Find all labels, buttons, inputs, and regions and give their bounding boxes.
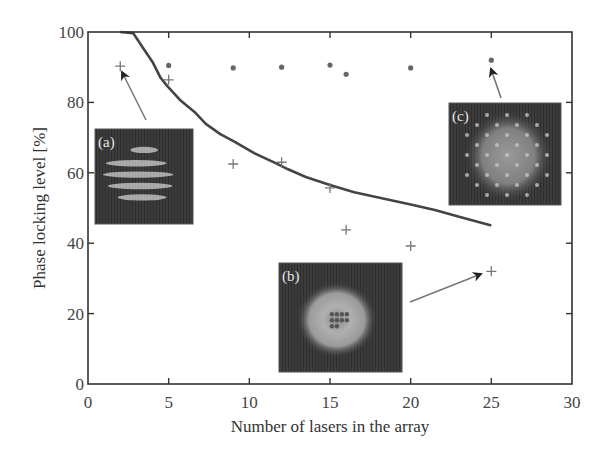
inset-c-image: (c)	[449, 103, 561, 205]
data-point-dot	[489, 58, 494, 63]
x-tick-label: 0	[84, 393, 93, 412]
data-point-plus	[341, 225, 351, 235]
inset-a-label: (a)	[98, 134, 115, 151]
inset-images: (a)(b)(c)	[95, 103, 561, 372]
x-tick-label: 10	[241, 393, 258, 412]
data-point-dot	[344, 72, 349, 77]
data-point-dot	[279, 65, 284, 70]
y-tick-label: 100	[59, 23, 85, 42]
x-tick-label: 25	[483, 393, 500, 412]
x-tick-label: 30	[564, 393, 581, 412]
inset-a-image: (a)	[95, 129, 193, 224]
arrow-a-icon	[122, 72, 146, 120]
x-tick-label: 5	[164, 393, 173, 412]
data-point-dot	[166, 63, 171, 68]
x-tick-label: 15	[322, 393, 339, 412]
x-axis-label: Number of lasers in the array	[231, 417, 430, 436]
inset-b-label: (b)	[282, 268, 300, 285]
data-point-plus	[406, 241, 416, 251]
data-point-plus	[115, 61, 125, 71]
data-point-dot	[408, 65, 413, 70]
y-tick-label: 0	[76, 375, 85, 394]
inset-b-image: (b)	[279, 263, 402, 372]
data-point-plus	[486, 266, 496, 276]
x-tick-label: 20	[402, 393, 419, 412]
data-point-dot	[231, 65, 236, 70]
data-point-plus	[228, 159, 238, 169]
arrow-c-icon	[491, 69, 501, 98]
y-tick-label: 40	[67, 234, 84, 253]
data-point-dot	[327, 62, 332, 67]
y-tick-label: 80	[67, 93, 84, 112]
inset-c-label: (c)	[452, 108, 469, 125]
arrow-b-icon	[410, 274, 481, 302]
y-tick-label: 20	[67, 305, 84, 324]
y-axis-label: Phase locking level [%]	[30, 127, 49, 289]
chart: (a)(b)(c) 051015202530020406080100Number…	[0, 0, 606, 458]
y-tick-label: 60	[67, 164, 84, 183]
axes: 051015202530020406080100Number of lasers…	[30, 23, 581, 436]
